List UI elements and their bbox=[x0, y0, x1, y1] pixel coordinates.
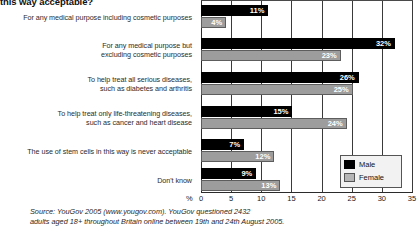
category-label-line: such as cancer and heart disease bbox=[0, 119, 192, 128]
category-label-line: For any medical purpose including cosmet… bbox=[0, 14, 192, 23]
gridline-5 bbox=[231, 1, 232, 193]
x-tick-label-25: 25 bbox=[344, 194, 360, 203]
x-tick-label-20: 20 bbox=[314, 194, 330, 203]
category-label-0: For any medical purpose including cosmet… bbox=[0, 14, 192, 23]
bar-value-label: 11% bbox=[250, 7, 265, 15]
category-label-5: Don't know bbox=[0, 177, 192, 186]
page-title: this way acceptable? bbox=[0, 0, 200, 8]
category-label-3: To help treat only life-threatening dise… bbox=[0, 110, 192, 127]
bar-female-3: 24% bbox=[201, 118, 347, 129]
category-label-line: such as diabetes and arthritis bbox=[0, 85, 192, 94]
bar-male-1: 32% bbox=[201, 38, 395, 49]
x-tick-label-30: 30 bbox=[374, 194, 390, 203]
bar-male-4: 7% bbox=[201, 139, 244, 150]
x-tick-label-35: 35 bbox=[404, 194, 420, 203]
bar-value-label: 15% bbox=[273, 108, 288, 116]
bar-value-label: 26% bbox=[340, 74, 355, 82]
bar-value-label: 4% bbox=[211, 19, 222, 27]
bar-female-0: 4% bbox=[201, 17, 226, 28]
source-note: Source: YouGov 2005 (www.yougov.com). Yo… bbox=[30, 207, 360, 226]
category-label-list: For any medical purpose including cosmet… bbox=[0, 8, 196, 193]
legend-swatch-male-icon bbox=[344, 160, 355, 169]
source-line-2: adults aged 18+ throughout Britain onlin… bbox=[30, 217, 360, 227]
x-tick-label-5: 5 bbox=[223, 194, 239, 203]
bar-male-2: 26% bbox=[201, 72, 359, 83]
x-tick-label-10: 10 bbox=[253, 194, 269, 203]
gridline-15 bbox=[291, 1, 292, 193]
legend-swatch-female-icon bbox=[344, 173, 355, 182]
category-label-line: The use of stem cells in this way is nev… bbox=[0, 148, 192, 157]
bar-value-label: 13% bbox=[261, 182, 276, 190]
gridline-35 bbox=[412, 1, 413, 193]
category-label-4: The use of stem cells in this way is nev… bbox=[0, 148, 192, 157]
bar-female-2: 25% bbox=[201, 84, 353, 95]
legend-label-female: Female bbox=[359, 173, 384, 182]
bar-value-label: 25% bbox=[334, 86, 349, 94]
bar-value-label: 12% bbox=[255, 153, 270, 161]
bar-value-label: 23% bbox=[322, 52, 337, 60]
legend-label-male: Male bbox=[359, 160, 375, 169]
x-tick-label-15: 15 bbox=[283, 194, 299, 203]
legend-item-male: Male bbox=[344, 158, 398, 171]
x-axis-unit-label: % bbox=[186, 194, 193, 203]
bar-female-4: 12% bbox=[201, 151, 274, 162]
bar-female-5: 13% bbox=[201, 180, 280, 191]
bar-value-label: 24% bbox=[328, 120, 343, 128]
source-line-1: Source: YouGov 2005 (www.yougov.com). Yo… bbox=[30, 207, 360, 217]
gridline-20 bbox=[322, 1, 323, 193]
x-tick-label-0: 0 bbox=[193, 194, 209, 203]
bar-male-5: 9% bbox=[201, 168, 256, 179]
category-label-line: excluding cosmetic purposes bbox=[0, 51, 192, 60]
bar-male-0: 11% bbox=[201, 5, 268, 16]
bar-value-label: 7% bbox=[229, 141, 240, 149]
x-axis: % 05101520253035 bbox=[186, 194, 416, 206]
legend: Male Female bbox=[340, 155, 402, 188]
bar-value-label: 32% bbox=[376, 40, 391, 48]
category-label-2: To help treat all serious diseases,such … bbox=[0, 76, 192, 93]
category-label-line: Don't know bbox=[0, 177, 192, 186]
bar-male-3: 15% bbox=[201, 106, 292, 117]
category-label-1: For any medical purpose butexcluding cos… bbox=[0, 42, 192, 59]
bar-female-1: 23% bbox=[201, 50, 341, 61]
legend-item-female: Female bbox=[344, 171, 398, 184]
plot-bottom-border bbox=[201, 192, 413, 193]
gridline-10 bbox=[261, 1, 262, 193]
bar-value-label: 9% bbox=[241, 170, 252, 178]
